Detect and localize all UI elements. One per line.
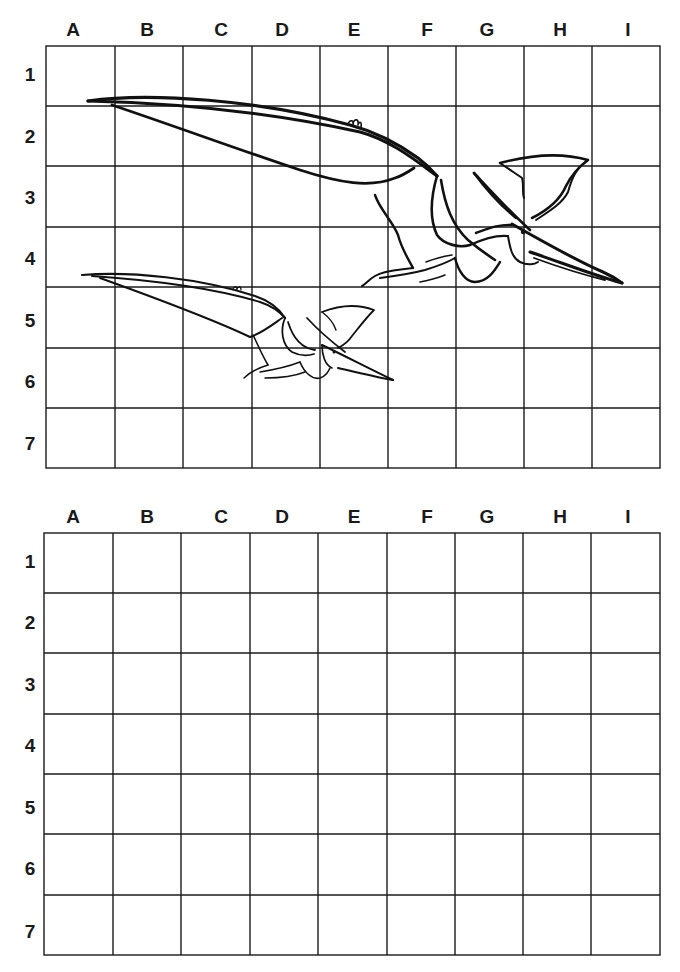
small-pterodactyl-drawing xyxy=(82,274,393,380)
drawing-worksheet: A B C D E F G H I 1 2 3 4 5 6 7 A B C D … xyxy=(0,0,680,972)
reference-grid xyxy=(46,46,660,468)
blank-practice-grid xyxy=(44,533,660,955)
worksheet-canvas xyxy=(0,0,680,972)
large-pterodactyl-drawing xyxy=(88,97,622,286)
